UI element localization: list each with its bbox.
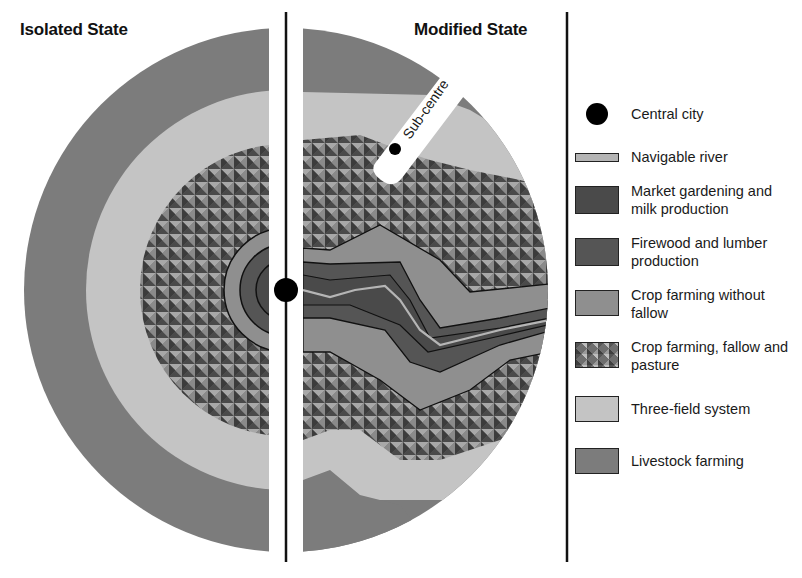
legend-label: Central city [631,105,704,123]
pyramid-pattern-swatch-icon [575,342,619,368]
legend-item-central-city: Central city [575,102,800,126]
legend-item-navigable-river: Navigable river [575,148,800,166]
legend-label: Crop farming, fallow and pasture [631,338,800,374]
legend-item-crop-fallow-pasture: Crop farming, fallow and pasture [575,338,800,374]
legend-label: Livestock farming [631,452,744,470]
river-bar-icon [575,153,619,162]
legend-label: Crop farming without fallow [631,286,800,322]
legend-item-market-gardening: Market gardening and milk production [575,182,800,218]
sub-centre-dot [389,143,401,155]
legend-label: Firewood and lumber production [631,234,800,270]
black-dot-icon [575,102,619,126]
central-city-dot [274,278,298,302]
legend-label: Three-field system [631,400,750,418]
legend-label: Navigable river [631,148,728,166]
legend-item-crop-without-fallow: Crop farming without fallow [575,286,800,322]
market-gardening-swatch-icon [575,186,619,214]
crop-without-fallow-swatch-icon [575,290,619,316]
firewood-swatch-icon [575,238,619,266]
legend-item-livestock: Livestock farming [575,448,800,474]
livestock-swatch-icon [575,448,619,474]
legend-label: Market gardening and milk production [631,182,800,218]
legend-item-firewood-lumber: Firewood and lumber production [575,234,800,270]
legend-item-three-field: Three-field system [575,396,800,422]
three-field-swatch-icon [575,396,619,422]
